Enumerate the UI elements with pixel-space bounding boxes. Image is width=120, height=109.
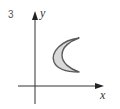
- x-axis-arrowhead-icon: [95, 83, 104, 89]
- crescent-shape: [53, 38, 79, 72]
- y-axis-arrowhead-icon: [32, 11, 38, 20]
- coordinate-diagram: [0, 0, 120, 109]
